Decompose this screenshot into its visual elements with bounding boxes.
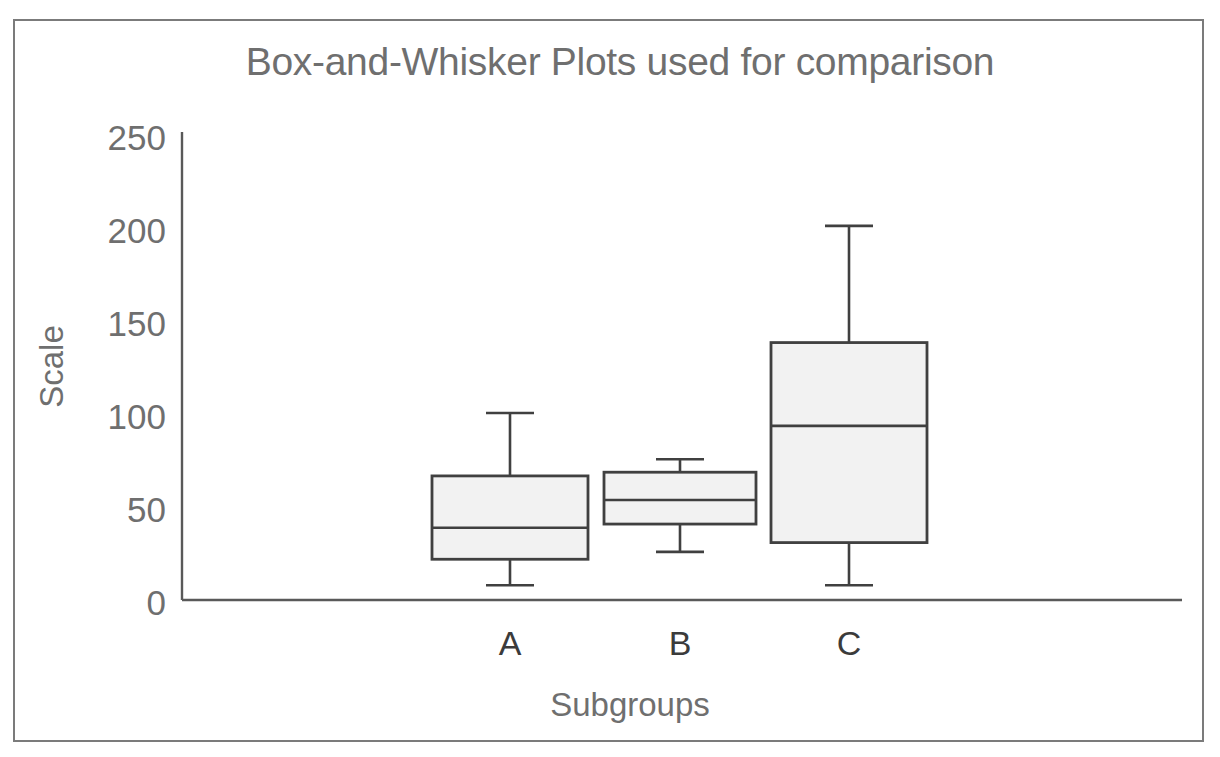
box-whisker-series bbox=[432, 226, 927, 585]
iqr-box[interactable] bbox=[604, 472, 756, 524]
chart-figure: Box-and-Whisker Plots used for compariso… bbox=[0, 0, 1220, 757]
iqr-box[interactable] bbox=[771, 343, 927, 543]
box-plot-b[interactable] bbox=[604, 459, 756, 552]
x-tick-label-c: C bbox=[809, 626, 889, 660]
x-tick-label-b: B bbox=[640, 626, 720, 660]
box-plot-c[interactable] bbox=[771, 226, 927, 585]
x-axis-title: Subgroups bbox=[390, 688, 870, 721]
iqr-box[interactable] bbox=[432, 476, 588, 559]
x-tick-label-a: A bbox=[470, 626, 550, 660]
box-plot-canvas bbox=[0, 0, 1220, 757]
axes-group bbox=[182, 132, 1182, 600]
box-plot-a[interactable] bbox=[432, 413, 588, 585]
